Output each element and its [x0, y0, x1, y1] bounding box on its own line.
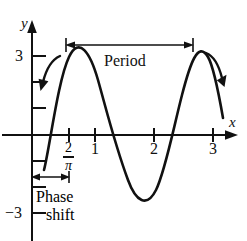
left-continuation-arrow — [39, 56, 60, 91]
phase-shift-line-2: shift — [36, 206, 74, 224]
fraction-denominator: π — [64, 158, 73, 173]
phase-shift-annotation-label: Phase shift — [36, 188, 74, 224]
x-axis-label: x — [229, 115, 236, 130]
x-tick-label-2: 2 — [150, 141, 158, 157]
x-tick-label-3: 3 — [209, 141, 217, 157]
phase-shift-dimension-arrow — [31, 171, 70, 183]
x-axis — [2, 130, 238, 140]
y-tick-label-neg3: −3 — [5, 205, 22, 221]
trig-graph-figure: y x 3 −3 2 π 1 2 3 Period Phase shift — [0, 0, 247, 241]
left-continuation-arc — [43, 56, 60, 82]
x-tick-label-two-over-pi: 2 π — [63, 141, 74, 173]
y-axis-arrowhead — [27, 20, 37, 33]
curve-path — [44, 47, 223, 200]
x-axis-arrowhead — [225, 130, 238, 140]
left-continuation-arrowhead — [39, 79, 49, 91]
x-tick-label-1: 1 — [91, 141, 99, 157]
sinusoid-curve — [44, 47, 223, 200]
period-annotation-label: Period — [104, 53, 146, 69]
y-axis-label: y — [21, 16, 28, 31]
fraction-numerator: 2 — [64, 141, 73, 156]
phase-shift-line-1: Phase — [36, 188, 73, 206]
y-tick-label-3: 3 — [15, 48, 23, 64]
